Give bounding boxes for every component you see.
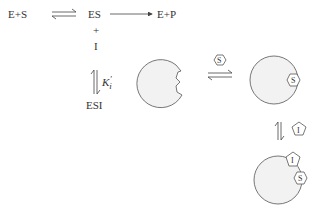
svg-text:S: S [298,174,302,183]
inhibitor-label: I [94,40,98,52]
equilibrium-arrow-binding [208,70,232,80]
plus-sign: + [93,24,99,36]
enzyme-substrate-complex: S [250,56,300,104]
dissociation-constant: Ki′ [101,74,113,91]
svg-text:S: S [217,56,221,65]
reactants-label: E+S [8,8,27,20]
product-label: E+P [157,8,176,20]
svg-text:I: I [291,156,294,165]
equilibrium-arrow-inhibitor [275,122,284,140]
equilibrium-arrow-esi [91,70,100,94]
svg-text:S: S [291,76,295,85]
complex-label: ES [88,8,101,20]
uncompetitive-inhibition-diagram: E+S ES E+P + I Ki′ ESI S S [0,0,328,215]
svg-text:I: I [297,126,300,135]
substrate-hexagon-free: S [214,55,226,65]
enzyme-substrate-inhibitor-complex: I S [254,152,307,204]
free-enzyme [137,60,182,108]
ternary-complex-label: ESI [86,99,103,111]
equilibrium-arrow-es [52,9,76,19]
inhibitor-pentagon-free: I [292,122,306,135]
